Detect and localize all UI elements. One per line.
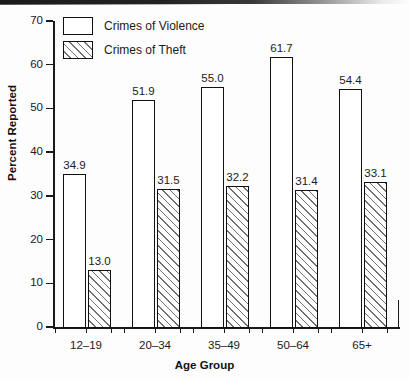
scan-artifact-band-secondary (0, 4, 230, 5)
bar-value-label-theft-2: 32.2 (216, 171, 259, 183)
y-tick-30 (46, 195, 53, 196)
bar-value-label-theft-4: 33.1 (354, 167, 397, 179)
x-tick-2-0 (193, 327, 194, 333)
legend-label-violence: Crimes of Violence (104, 20, 205, 32)
x-tick-1-0 (124, 327, 125, 333)
bar-violence-4 (339, 89, 362, 328)
x-tick-0-2 (111, 327, 112, 333)
bar-theft-2 (226, 186, 249, 328)
legend-label-theft: Crimes of Theft (104, 44, 186, 56)
y-tick-label-60: 60 (3, 59, 43, 71)
bar-value-label-violence-2: 55.0 (191, 72, 234, 84)
x-tick-3-0 (262, 327, 263, 333)
y-tick-60 (46, 64, 53, 65)
x-tick-4-2 (387, 327, 388, 333)
y-tick-label-70: 70 (3, 15, 43, 27)
legend: Crimes of Violence Crimes of Theft (63, 14, 205, 62)
bar-chart: 010203040506070 12–1920–3435–4950–6465+ … (0, 0, 409, 379)
x-tick-1-2 (180, 327, 181, 333)
y-tick-50 (46, 108, 53, 109)
bar-violence-0 (63, 174, 86, 328)
x-tick-0-0 (55, 327, 56, 333)
bar-value-label-theft-3: 31.4 (285, 175, 328, 187)
y-tick-label-10: 10 (3, 277, 43, 289)
bar-value-label-theft-1: 31.5 (147, 174, 190, 186)
legend-entry-theft: Crimes of Theft (63, 38, 205, 62)
x-tick-2-2 (249, 327, 250, 333)
plot-right-edge (398, 300, 399, 328)
bar-value-label-violence-3: 61.7 (260, 42, 303, 54)
legend-swatch-open (63, 17, 93, 35)
x-tick-label-4: 65+ (317, 339, 407, 351)
bar-theft-3 (295, 190, 318, 328)
bar-violence-1 (132, 100, 155, 328)
bar-value-label-violence-0: 34.9 (53, 159, 96, 171)
y-axis-line (53, 21, 55, 328)
bar-theft-1 (157, 189, 180, 328)
x-tick-4-0 (331, 327, 332, 333)
x-tick-3-2 (318, 327, 319, 333)
y-axis-title: Percent Reported (6, 73, 18, 193)
bar-violence-3 (270, 57, 293, 328)
y-tick-0 (46, 326, 53, 327)
y-tick-20 (46, 239, 53, 240)
bar-value-label-violence-4: 54.4 (329, 74, 372, 86)
x-axis-title: Age Group (0, 359, 409, 371)
bar-value-label-theft-0: 13.0 (78, 255, 121, 267)
y-tick-40 (46, 151, 53, 152)
y-tick-label-20: 20 (3, 234, 43, 246)
bar-theft-0 (88, 270, 111, 328)
y-tick-label-0: 0 (3, 321, 43, 333)
bar-theft-4 (364, 182, 387, 328)
bar-value-label-violence-1: 51.9 (122, 85, 165, 97)
y-tick-10 (46, 283, 53, 284)
legend-swatch-hatched (63, 41, 93, 59)
bar-violence-2 (201, 87, 224, 328)
y-tick-70 (46, 20, 53, 21)
legend-entry-violence: Crimes of Violence (63, 14, 205, 38)
